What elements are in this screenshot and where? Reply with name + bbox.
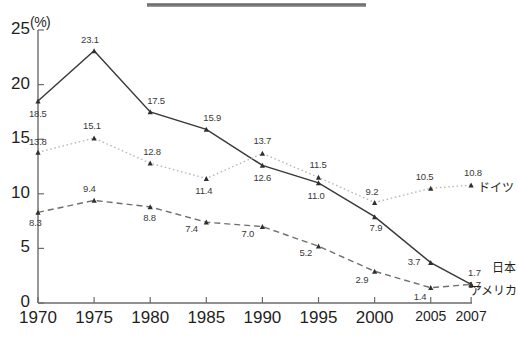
data-label: 3.7 xyxy=(408,256,421,267)
data-label: 12.6 xyxy=(253,172,271,183)
chart-series-layer xyxy=(35,48,473,290)
x-tick-label: 1990 xyxy=(242,308,282,328)
series-marker xyxy=(372,200,377,205)
series-line-dashed xyxy=(38,200,471,287)
data-label: 7.9 xyxy=(370,222,383,233)
series-label-america: アメリカ xyxy=(470,281,517,298)
data-label: 12.8 xyxy=(143,146,161,157)
chart-container: (%) 2520151050 1970197519801985199019952… xyxy=(0,0,518,342)
data-label: 1.7 xyxy=(468,267,481,278)
series-label-japan: 日本 xyxy=(492,258,516,275)
series-label-germany: ドイツ xyxy=(478,178,514,195)
line-chart-plot xyxy=(0,0,518,342)
data-label: 23.1 xyxy=(81,34,99,45)
data-label: 17.5 xyxy=(147,95,165,106)
data-label: 13.7 xyxy=(253,135,271,146)
data-label: 11.4 xyxy=(195,185,212,196)
series-line-solid xyxy=(38,51,471,285)
data-label: 15.1 xyxy=(83,120,101,131)
data-label: 11.0 xyxy=(308,190,325,201)
data-label: 18.5 xyxy=(29,108,47,119)
y-tick-label: 5 xyxy=(0,237,30,257)
data-label: 11.5 xyxy=(310,159,327,170)
data-label: 5.2 xyxy=(300,247,313,258)
y-tick-label: 20 xyxy=(0,74,30,94)
x-tick-label: 1970 xyxy=(18,308,58,328)
series-marker xyxy=(204,176,209,181)
series-marker xyxy=(260,224,265,229)
y-tick-label: 15 xyxy=(0,128,30,148)
data-label: 8.8 xyxy=(143,212,156,223)
series-line-dotted xyxy=(38,138,471,202)
y-tick-label: 10 xyxy=(0,183,30,203)
data-label: 9.4 xyxy=(83,183,96,194)
series-marker xyxy=(260,151,265,156)
x-tick-label: 1980 xyxy=(130,308,170,328)
data-label: 13.8 xyxy=(29,136,47,147)
series-marker xyxy=(35,150,40,155)
series-marker xyxy=(92,48,97,53)
data-label: 1.4 xyxy=(414,291,427,302)
data-label: 15.9 xyxy=(203,112,221,123)
data-label: 8.3 xyxy=(29,217,42,228)
data-label: 10.5 xyxy=(416,171,434,182)
x-tick-label: 2007 xyxy=(451,308,491,324)
x-tick-label: 2000 xyxy=(355,308,395,328)
data-label: 7.4 xyxy=(185,223,198,234)
data-label: 7.0 xyxy=(241,228,254,239)
x-tick-label: 1995 xyxy=(299,308,339,328)
data-label: 9.2 xyxy=(366,186,379,197)
x-tick-label: 2005 xyxy=(411,308,451,324)
y-tick-label: 25 xyxy=(0,19,30,39)
x-tick-label: 1985 xyxy=(186,308,226,328)
x-tick-label: 1975 xyxy=(74,308,114,328)
data-label: 10.8 xyxy=(464,167,482,178)
data-label: 2.9 xyxy=(356,274,369,285)
